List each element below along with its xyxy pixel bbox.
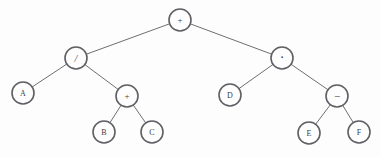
- tree-node-D[interactable]: D: [219, 84, 241, 106]
- tree-node-C[interactable]: C: [141, 121, 163, 143]
- edge-layer: [33, 24, 354, 124]
- tree-edge: [85, 65, 118, 89]
- tree-edge: [191, 24, 272, 54]
- node-label: F: [357, 128, 362, 137]
- node-label: +: [124, 91, 129, 101]
- node-label: A: [20, 89, 26, 98]
- node-label: +: [177, 15, 182, 25]
- tree-node-multiply[interactable]: ·: [271, 47, 293, 69]
- tree-edge: [316, 105, 330, 124]
- tree-node-B[interactable]: B: [93, 121, 115, 143]
- tree-edge: [134, 105, 146, 122]
- tree-node-minus[interactable]: −: [326, 85, 348, 107]
- tree-node-A[interactable]: A: [12, 82, 34, 104]
- tree-edge: [239, 65, 272, 89]
- node-label: D: [227, 91, 233, 100]
- tree-node-plus[interactable]: +: [116, 85, 138, 107]
- tree-edge: [343, 106, 353, 123]
- node-label: E: [307, 129, 312, 138]
- node-label: B: [101, 128, 106, 137]
- tree-node-plus[interactable]: +: [169, 9, 191, 31]
- tree-node-divide[interactable]: /: [65, 47, 87, 69]
- node-label: ·: [280, 50, 285, 65]
- tree-edge: [87, 24, 170, 54]
- expression-tree-figure: +/·A+D−BCEF: [0, 0, 381, 157]
- node-label: C: [149, 128, 154, 137]
- tree-node-F[interactable]: F: [348, 121, 370, 143]
- node-layer: +/·A+D−BCEF: [12, 9, 370, 144]
- tree-diagram-canvas: +/·A+D−BCEF: [0, 0, 381, 157]
- node-label: −: [334, 90, 340, 102]
- tree-edge: [291, 64, 327, 89]
- tree-edge: [33, 64, 67, 86]
- tree-edge: [110, 106, 121, 123]
- tree-node-E[interactable]: E: [298, 122, 320, 144]
